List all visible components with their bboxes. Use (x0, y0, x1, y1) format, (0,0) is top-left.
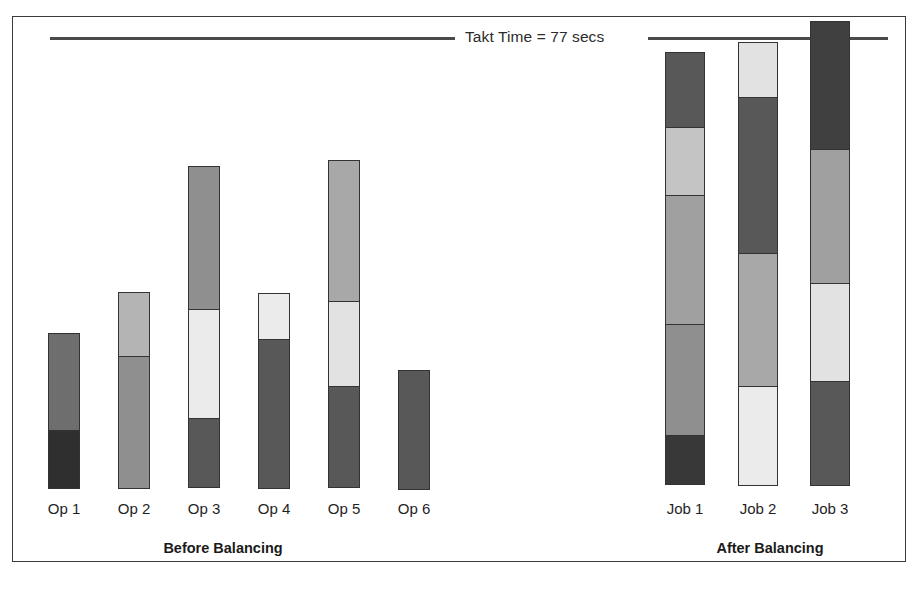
bar-segment (328, 386, 360, 488)
bar-job-3[interactable] (810, 21, 850, 490)
bar-job-1[interactable] (665, 52, 705, 490)
bar-op-3[interactable] (188, 166, 220, 490)
category-label-job-2: Job 2 (728, 500, 788, 517)
bar-segment (810, 21, 850, 150)
bar-segment (665, 324, 705, 436)
bar-segment (48, 333, 80, 431)
category-label-op-2: Op 2 (104, 500, 164, 517)
bar-segment (738, 253, 778, 388)
bar-segment (810, 381, 850, 486)
bar-segment (188, 309, 220, 419)
bar-segment (665, 195, 705, 326)
bar-op-2[interactable] (118, 292, 150, 490)
bar-segment (188, 166, 220, 310)
bar-segment (328, 301, 360, 387)
bar-segment (48, 430, 80, 489)
category-label-op-6: Op 6 (384, 500, 444, 517)
bar-segment (188, 418, 220, 488)
category-label-job-1: Job 1 (655, 500, 715, 517)
bar-segment (328, 160, 360, 302)
bar-segment (258, 293, 290, 340)
takt-line-right-segment (648, 37, 888, 40)
bar-segment (118, 292, 150, 357)
category-label-op-5: Op 5 (314, 500, 374, 517)
bar-op-5[interactable] (328, 160, 360, 490)
line-balancing-chart: Takt Time = 77 secs Op 1 Op 2 Op 3 Op 4 (0, 0, 918, 599)
bar-segment (810, 149, 850, 284)
bar-segment (258, 339, 290, 489)
bar-job-2[interactable] (738, 42, 778, 490)
plot-area: Takt Time = 77 secs Op 1 Op 2 Op 3 Op 4 (0, 0, 918, 599)
category-label-op-3: Op 3 (174, 500, 234, 517)
category-label-op-1: Op 1 (34, 500, 94, 517)
group-caption-before: Before Balancing (143, 540, 303, 556)
group-caption-after: After Balancing (695, 540, 845, 556)
bar-op-1[interactable] (48, 333, 80, 490)
category-label-op-4: Op 4 (244, 500, 304, 517)
bar-op-4[interactable] (258, 293, 290, 490)
bar-segment (118, 356, 150, 489)
bar-segment (665, 127, 705, 196)
bar-segment (398, 370, 430, 490)
bar-segment (665, 52, 705, 128)
bar-op-6[interactable] (398, 370, 430, 490)
takt-time-label: Takt Time = 77 secs (465, 28, 604, 46)
bar-segment (738, 97, 778, 254)
takt-line-left-segment (50, 37, 455, 40)
bar-segment (665, 435, 705, 485)
bar-segment (810, 283, 850, 383)
bar-segment (738, 42, 778, 98)
category-label-job-3: Job 3 (800, 500, 860, 517)
bar-segment (738, 386, 778, 486)
